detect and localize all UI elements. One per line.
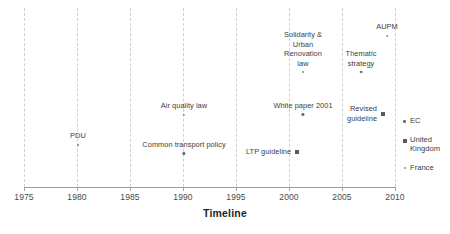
gridline-1985 [130,8,131,187]
tick-label-1980: 1980 [67,192,86,202]
tick-mark-1995 [236,187,237,191]
event-white-paper-2001-label: White paper 2001 [273,101,332,111]
france-dot-marker-icon [386,35,388,37]
legend-item-ec[interactable]: EC [402,116,450,126]
event-air-quality-law-marker-row [161,111,207,119]
tick-mark-1980 [77,187,78,191]
tick-label-2000: 2000 [279,192,298,202]
tick-label-2005: 2005 [332,192,351,202]
uk-square-marker-icon [295,150,299,154]
ec-dot-marker-icon [302,113,305,116]
event-pdu-label: PDU [70,131,86,141]
event-ltp-guideline-label: LTP guideline [246,147,291,157]
event-thematic-strategy[interactable]: Thematic strategy [346,49,377,76]
legend-item-united-kingdom[interactable]: United Kingdom [402,135,450,154]
france-dot-marker-icon [77,144,79,146]
tick-mark-1975 [24,187,25,191]
event-aupm[interactable]: AUPM [376,22,398,40]
gridline-1980 [77,8,78,187]
event-solidarity-urban-renovation-law-marker-row [284,68,322,76]
event-solidarity-urban-renovation-law-label: Solidarity & Urban Renovation law [284,30,322,68]
tick-label-1990: 1990 [173,192,192,202]
tick-mark-1985 [130,187,131,191]
france-dot-marker-icon [302,71,304,73]
tick-label-2010: 2010 [385,192,404,202]
ec-dot-marker-icon [183,152,186,155]
event-thematic-strategy-marker-row [346,68,377,76]
france-dot-marker-icon [183,114,185,116]
event-ltp-guideline[interactable]: LTP guideline [246,147,299,157]
event-white-paper-2001-marker-row [273,111,332,119]
gridline-1995 [236,8,237,187]
legend-item-united-kingdom-label: United Kingdom [410,135,440,154]
gridline-1975 [24,8,25,187]
uk-square-marker-icon [402,139,407,143]
event-revised-guideline[interactable]: Revised guideline [347,104,385,123]
tick-label-1985: 1985 [120,192,139,202]
event-white-paper-2001[interactable]: White paper 2001 [273,101,332,119]
event-common-transport-policy[interactable]: Common transport policy [142,140,225,158]
uk-square-marker-icon [381,112,385,116]
tick-mark-2000 [289,187,290,191]
legend-item-ec-label: EC [410,116,421,126]
event-aupm-label: AUPM [376,22,398,32]
event-thematic-strategy-label: Thematic strategy [346,49,377,68]
event-common-transport-policy-label: Common transport policy [142,140,225,150]
event-aupm-marker-row [376,32,398,40]
event-air-quality-law[interactable]: Air quality law [161,101,207,119]
tick-mark-2005 [342,187,343,191]
event-common-transport-policy-marker-row [142,150,225,158]
tick-mark-2010 [395,187,396,191]
ec-dot-marker-icon [360,71,363,74]
plot-area [24,8,395,187]
tick-label-1995: 1995 [226,192,245,202]
event-pdu[interactable]: PDU [70,131,86,149]
ec-dot-marker-icon [402,120,407,123]
france-dot-marker-icon [402,167,407,169]
event-solidarity-urban-renovation-law[interactable]: Solidarity & Urban Renovation law [284,30,322,76]
legend-item-france[interactable]: France [402,163,450,173]
tick-mark-1990 [183,187,184,191]
x-axis-line [24,187,395,188]
x-axis-title: Timeline [0,207,450,219]
legend-item-france-label: France [410,163,434,173]
tick-label-1975: 1975 [14,192,33,202]
timeline-chart: AUPM Solidarity & Urban Renovation law T… [0,0,450,234]
event-air-quality-law-label: Air quality law [161,101,207,111]
gridline-2005 [342,8,343,187]
legend: EC United Kingdom France [402,116,450,181]
event-revised-guideline-label: Revised guideline [347,104,377,123]
gridline-1990 [183,8,184,187]
event-pdu-marker-row [70,141,86,149]
